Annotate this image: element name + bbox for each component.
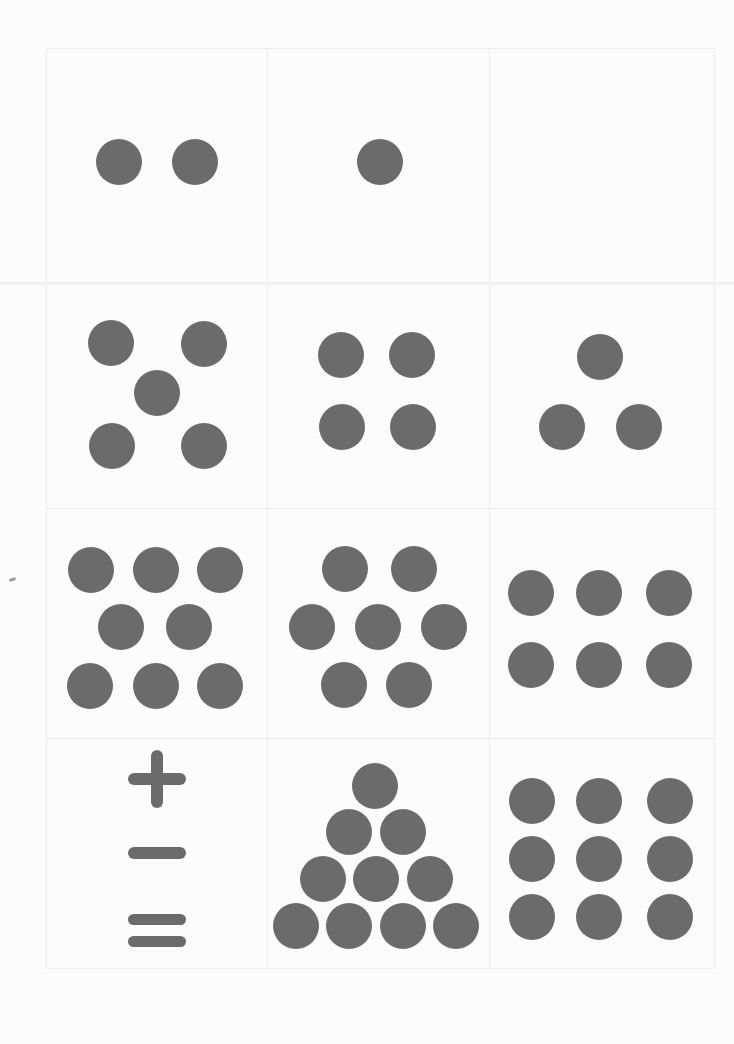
- dot-icon: [181, 423, 227, 469]
- dot-icon: [197, 547, 243, 593]
- dot-icon: [646, 570, 692, 616]
- dot-icon: [357, 139, 403, 185]
- dot-icon: [647, 894, 693, 940]
- dot-icon: [88, 320, 134, 366]
- dot-icon: [386, 662, 432, 708]
- dot-icon: [576, 894, 622, 940]
- grid-line-row1: [0, 282, 734, 285]
- dot-icon: [352, 763, 398, 809]
- dot-icon: [353, 856, 399, 902]
- dot-icon: [390, 404, 436, 450]
- dot-icon: [289, 604, 335, 650]
- dot-icon: [508, 570, 554, 616]
- dot-icon: [355, 604, 401, 650]
- dot-icon: [96, 139, 142, 185]
- dot-icon: [172, 139, 218, 185]
- dot-icon: [577, 334, 623, 380]
- dot-icon: [326, 809, 372, 855]
- dot-icon: [421, 604, 467, 650]
- dot-icon: [616, 404, 662, 450]
- dot-icon: [318, 332, 364, 378]
- dot-icon: [68, 547, 114, 593]
- grid-line-bottom: [46, 968, 714, 969]
- stray-mark: [9, 577, 17, 582]
- dot-icon: [134, 370, 180, 416]
- dot-icon: [433, 903, 479, 949]
- dot-icon: [133, 663, 179, 709]
- dot-icon: [391, 546, 437, 592]
- dot-icon: [197, 663, 243, 709]
- dot-icon: [647, 778, 693, 824]
- dot-icon: [647, 836, 693, 882]
- worksheet-page: [0, 0, 734, 1044]
- grid-line-row2: [46, 508, 714, 509]
- dot-icon: [67, 663, 113, 709]
- dot-icon: [181, 321, 227, 367]
- dot-icon: [509, 836, 555, 882]
- dot-icon: [576, 836, 622, 882]
- dot-icon: [508, 642, 554, 688]
- dot-icon: [380, 809, 426, 855]
- dot-icon: [646, 642, 692, 688]
- dot-icon: [300, 856, 346, 902]
- grid-line-row3: [46, 738, 714, 739]
- dot-icon: [133, 547, 179, 593]
- dot-icon: [576, 642, 622, 688]
- dot-icon: [380, 903, 426, 949]
- dot-icon: [322, 546, 368, 592]
- dot-icon: [509, 894, 555, 940]
- dot-icon: [89, 423, 135, 469]
- dot-icon: [321, 662, 367, 708]
- dot-icon: [389, 332, 435, 378]
- dot-icon: [509, 778, 555, 824]
- dot-icon: [576, 570, 622, 616]
- grid-line-right: [714, 48, 715, 968]
- dot-icon: [576, 778, 622, 824]
- dot-icon: [166, 604, 212, 650]
- dot-icon: [273, 903, 319, 949]
- dot-icon: [319, 404, 365, 450]
- dot-icon: [407, 856, 453, 902]
- dot-icon: [98, 604, 144, 650]
- dot-icon: [326, 903, 372, 949]
- grid-line-top: [46, 48, 714, 49]
- dot-icon: [539, 404, 585, 450]
